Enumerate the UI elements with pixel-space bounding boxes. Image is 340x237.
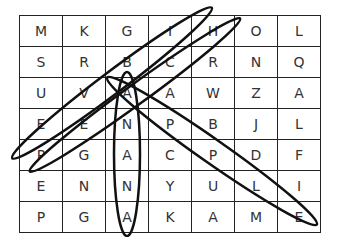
- grid-row: SRBCRNQ: [20, 47, 321, 78]
- grid-cell: E: [278, 202, 321, 233]
- grid-cell: L: [278, 109, 321, 140]
- grid-cell: P: [20, 202, 63, 233]
- grid-cell: P: [149, 109, 192, 140]
- grid-row: EENPBJL: [20, 109, 321, 140]
- grid-cell: E: [63, 109, 106, 140]
- grid-cell: B: [192, 109, 235, 140]
- grid-cell: C: [149, 140, 192, 171]
- grid-cell: L: [278, 16, 321, 47]
- grid-cell: A: [149, 78, 192, 109]
- grid-cell: G: [63, 202, 106, 233]
- grid-cell: E: [20, 171, 63, 202]
- grid-cell: G: [63, 140, 106, 171]
- grid-cell: H: [192, 16, 235, 47]
- grid-cell: R: [63, 47, 106, 78]
- grid-cell: N: [106, 109, 149, 140]
- grid-cell: O: [235, 16, 278, 47]
- grid-cell: I: [278, 171, 321, 202]
- grid-cell: P: [20, 140, 63, 171]
- grid-cell: G: [106, 16, 149, 47]
- grid-cell: Z: [235, 78, 278, 109]
- grid-cell: I: [149, 16, 192, 47]
- grid-cell: A: [106, 140, 149, 171]
- grid-cell: W: [192, 78, 235, 109]
- grid-cell: F: [278, 140, 321, 171]
- word-search-grid: MKGIHOLSRBCRNQUVAAWZAEENPBJLPGACPDFENNYU…: [19, 15, 321, 233]
- grid-cell: L: [235, 171, 278, 202]
- grid-cell: J: [235, 109, 278, 140]
- grid-cell: M: [235, 202, 278, 233]
- grid-cell: N: [106, 171, 149, 202]
- grid-cell: Y: [149, 171, 192, 202]
- grid-cell: P: [192, 140, 235, 171]
- grid-cell: A: [192, 202, 235, 233]
- grid-row: PGAKAME: [20, 202, 321, 233]
- grid-row: MKGIHOL: [20, 16, 321, 47]
- grid-cell: A: [106, 202, 149, 233]
- grid-cell: K: [149, 202, 192, 233]
- grid-cell: U: [192, 171, 235, 202]
- grid-cell: R: [192, 47, 235, 78]
- grid-cell: E: [20, 109, 63, 140]
- grid-row: UVAAWZA: [20, 78, 321, 109]
- grid-cell: A: [106, 78, 149, 109]
- grid-cell: K: [63, 16, 106, 47]
- grid-row: PGACPDF: [20, 140, 321, 171]
- grid-cell: C: [149, 47, 192, 78]
- grid-cell: N: [63, 171, 106, 202]
- grid-cell: Q: [278, 47, 321, 78]
- grid-cell: M: [20, 16, 63, 47]
- grid-cell: U: [20, 78, 63, 109]
- grid-cell: N: [235, 47, 278, 78]
- grid-cell: B: [106, 47, 149, 78]
- grid-row: ENNYULI: [20, 171, 321, 202]
- grid-cell: D: [235, 140, 278, 171]
- grid-cell: S: [20, 47, 63, 78]
- grid-cell: A: [278, 78, 321, 109]
- grid-cell: V: [63, 78, 106, 109]
